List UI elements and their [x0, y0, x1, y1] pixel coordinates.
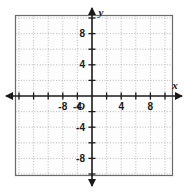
x-axis-label: x [171, 79, 178, 91]
origin-label: O [77, 100, 85, 112]
coordinate-plane-svg: -8 -4 4 8 8 4 -4 -8 O y x [0, 0, 188, 193]
x-tick-label-8: 8 [148, 101, 154, 112]
y-tick-label-4: 4 [79, 59, 85, 70]
y-tick-label-8: 8 [79, 28, 85, 39]
x-tick-label--8: -8 [58, 101, 67, 112]
y-tick-label--8: -8 [76, 153, 85, 164]
y-tick-label--4: -4 [76, 122, 85, 133]
y-axis-label: y [97, 6, 104, 18]
coordinate-plane-figure: -8 -4 4 8 8 4 -4 -8 O y x [0, 0, 188, 193]
x-tick-label-4: 4 [118, 101, 124, 112]
